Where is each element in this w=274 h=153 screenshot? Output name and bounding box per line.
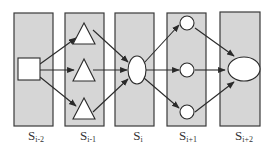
label-s-i-plus-2: Si+2 — [235, 128, 253, 144]
square-node — [18, 58, 40, 80]
ellipse-node-s-i — [128, 56, 146, 84]
label-s-i-minus-1: Si-1 — [80, 128, 96, 144]
circle-node-mid — [180, 63, 194, 77]
label-s-i-minus-2: Si-2 — [28, 128, 44, 144]
circle-node-bot — [180, 105, 194, 119]
label-s-i: Si — [133, 128, 142, 144]
circle-node-top — [180, 16, 194, 30]
ellipse-node-s-i-plus-2 — [228, 57, 260, 81]
label-s-i-plus-1: Si+1 — [179, 128, 197, 144]
